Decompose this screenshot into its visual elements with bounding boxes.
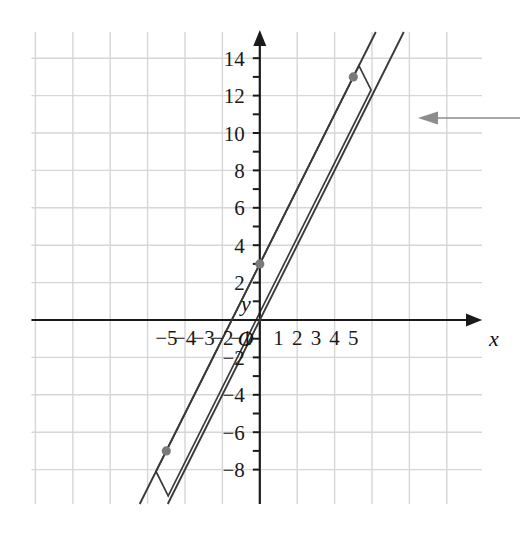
- graph-figure: −5−4−3−2−112345−8−6−4−22468101214yxO: [0, 0, 520, 551]
- x-tick-label-5: 5: [348, 326, 359, 350]
- origin-label: O: [238, 326, 254, 351]
- y-tick-label-12: 12: [224, 84, 245, 108]
- y-tick-label-neg4: −4: [222, 383, 245, 407]
- y-tick-label-8: 8: [234, 159, 245, 183]
- point-0-3: [255, 259, 264, 268]
- y-axis-arrowhead: [253, 30, 266, 46]
- y-tick-label-6: 6: [234, 196, 245, 220]
- y-tick-label-neg6: −6: [222, 421, 244, 445]
- y-tick-label-neg8: −8: [222, 458, 244, 482]
- shaded-band-outline: [156, 66, 371, 496]
- x-tick-label-1: 1: [273, 326, 284, 350]
- x-tick-label-4: 4: [329, 326, 340, 350]
- coordinate-plane-svg: −5−4−3−2−112345−8−6−4−22468101214yxO: [0, 0, 520, 551]
- y-axis-name: y: [239, 291, 251, 316]
- y-tick-label-4: 4: [234, 234, 245, 258]
- point-5-13: [349, 72, 358, 81]
- point-neg5-neg7: [162, 446, 171, 455]
- line-lower: [168, 32, 404, 504]
- band-layer: [156, 66, 371, 496]
- annotation-layer: [418, 112, 520, 125]
- x-tick-label-2: 2: [292, 326, 303, 350]
- x-tick-label-3: 3: [311, 326, 322, 350]
- y-tick-label-10: 10: [224, 122, 245, 146]
- y-tick-label-14: 14: [224, 47, 246, 71]
- leader-arrowhead: [418, 112, 438, 125]
- x-axis-name: x: [488, 326, 499, 351]
- x-axis-arrowhead: [466, 314, 482, 327]
